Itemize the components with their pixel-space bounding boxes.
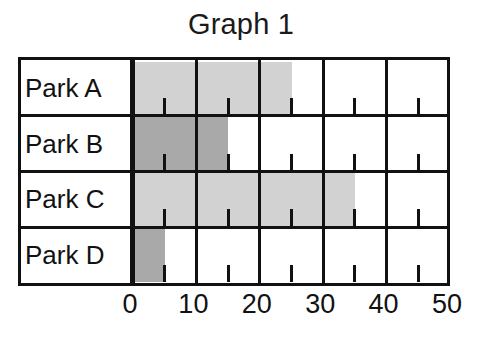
minor-tick-5 [163, 265, 166, 282]
minor-tick-15 [227, 209, 230, 226]
minor-tick-25 [290, 209, 293, 226]
minor-tick-25 [290, 154, 293, 171]
x-tick-label-50: 50 [417, 289, 477, 320]
minor-tick-45 [417, 209, 420, 226]
x-tick-label-10: 10 [163, 289, 223, 320]
category-label-park-d: Park D [21, 227, 133, 284]
bar-park-a [133, 62, 292, 115]
category-label-park-b: Park B [21, 116, 133, 173]
bar-park-d [133, 229, 165, 282]
minor-tick-5 [163, 209, 166, 226]
minor-tick-25 [290, 98, 293, 115]
minor-tick-15 [227, 154, 230, 171]
row-divider [21, 170, 447, 173]
minor-tick-45 [417, 265, 420, 282]
chart-title: Graph 1 [0, 8, 482, 41]
minor-tick-15 [227, 98, 230, 115]
minor-tick-35 [353, 209, 356, 226]
minor-tick-35 [353, 154, 356, 171]
category-label-park-a: Park A [21, 60, 133, 117]
x-tick-label-0: 0 [100, 289, 160, 320]
x-tick-label-40: 40 [354, 289, 414, 320]
category-label-park-c: Park C [21, 172, 133, 229]
row-divider [21, 114, 447, 117]
x-tick-label-20: 20 [227, 289, 287, 320]
x-tick-label-30: 30 [290, 289, 350, 320]
minor-tick-5 [163, 154, 166, 171]
minor-tick-35 [353, 98, 356, 115]
chart-graph-1: Graph 1 Park APark BPark CPark D 0102030… [0, 0, 482, 339]
minor-tick-5 [163, 98, 166, 115]
minor-tick-45 [417, 154, 420, 171]
x-axis: 01020304050 [18, 289, 450, 329]
bar-park-b [133, 117, 228, 170]
minor-tick-25 [290, 265, 293, 282]
row-divider [21, 226, 447, 229]
minor-tick-45 [417, 98, 420, 115]
minor-tick-15 [227, 265, 230, 282]
minor-tick-35 [353, 265, 356, 282]
plot-frame: Park APark BPark CPark D [18, 57, 450, 286]
